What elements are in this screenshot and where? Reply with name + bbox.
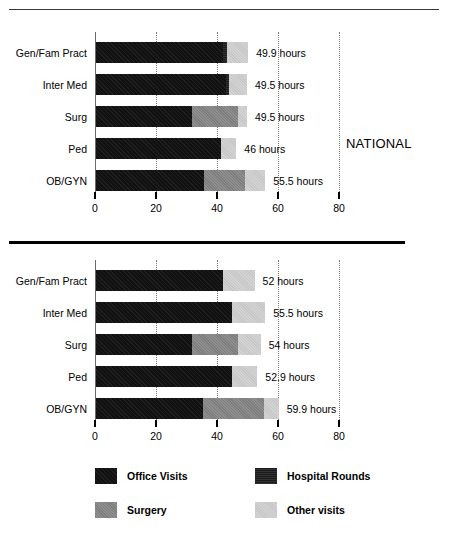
legend-swatch [255,502,277,518]
bar-segment-other-visits [245,170,265,191]
bar-total-label: 54 hours [269,339,310,351]
category-label: Ped [68,143,87,155]
stacked-bar [96,170,265,191]
bar-total-label: 55.5 hours [273,175,323,187]
bar-segment-other-visits [238,106,247,127]
plot-area-western: 020406080Gen/Fam Pract52 hoursInter Med5… [95,260,340,420]
legend-label: Hospital Rounds [287,470,370,482]
panel-divider [9,241,405,244]
bar-segment-surgery [192,106,238,127]
stacked-bar [96,398,279,419]
bar-segment-office-visits [96,334,192,355]
x-axis-tick [277,420,279,427]
stacked-bar [96,138,236,159]
x-axis-tick [338,192,340,199]
bar-total-label: 59.9 hours [287,403,337,415]
x-axis-tick-label: 0 [92,202,98,214]
category-label: Inter Med [43,79,87,91]
legend-swatch [95,468,117,484]
bar-segment-office-visits [96,74,226,95]
stacked-bar [96,302,265,323]
bar-total-label: 49.9 hours [256,47,306,59]
legend-item: Other visits [255,502,345,518]
chart-page: 020406080Gen/Fam Pract49.9 hoursInter Me… [0,0,466,539]
bar-segment-other-visits [264,398,279,419]
bar-segment-office-visits [96,42,223,63]
x-axis-tick-label: 80 [333,202,345,214]
chart-row: Inter Med49.5 hours [95,74,339,95]
legend-swatch [95,502,117,518]
stacked-bar [96,106,247,127]
bar-segment-surgery [204,170,246,191]
x-axis-tick-label: 40 [211,202,223,214]
x-axis-tick-label: 80 [333,430,345,442]
chart-row: Surg54 hours [95,334,339,355]
bar-segment-other-visits [238,334,261,355]
chart-legend: Office VisitsHospital RoundsSurgeryOther… [95,466,425,526]
legend-label: Other visits [287,504,345,516]
stacked-bar [96,270,255,291]
stacked-bar [96,74,247,95]
bar-segment-other-visits [223,270,255,291]
chart-row: Gen/Fam Pract52 hours [95,270,339,291]
x-axis-tick [338,420,340,427]
top-divider [9,9,439,10]
category-label: Inter Med [43,307,87,319]
legend-item: Office Visits [95,468,188,484]
category-label: Ped [68,371,87,383]
chart-row: Ped52.9 hours [95,366,339,387]
chart-row: Inter Med55.5 hours [95,302,339,323]
bar-total-label: 52 hours [263,275,304,287]
bar-segment-other-visits [232,366,258,387]
stacked-bar [96,366,257,387]
chart-row: OB/GYN59.9 hours [95,398,339,419]
x-axis-tick-label: 40 [211,430,223,442]
bar-segment-other-visits [229,74,247,95]
bar-total-label: 55.5 hours [273,307,323,319]
x-axis-tick [277,192,279,199]
stacked-bar [96,42,248,63]
x-axis-tick [216,192,218,199]
category-label: Gen/Fam Pract [16,47,87,59]
x-axis-tick [155,192,157,199]
bar-segment-other-visits [227,42,248,63]
legend-item: Surgery [95,502,167,518]
bar-segment-office-visits [96,170,204,191]
chart-row: OB/GYN55.5 hours [95,170,339,191]
legend-swatch [255,468,277,484]
x-axis-tick-label: 60 [272,430,284,442]
gridline [339,260,341,420]
panel-caption-national: NATIONAL [346,136,412,151]
bar-segment-office-visits [96,270,223,291]
gridline [339,32,341,192]
bar-segment-office-visits [96,138,221,159]
chart-row: Surg49.5 hours [95,106,339,127]
category-label: Surg [65,111,87,123]
bar-total-label: 49.5 hours [255,111,305,123]
x-axis-tick [94,420,96,427]
bar-total-label: 49.5 hours [255,79,305,91]
bar-segment-other-visits [232,302,266,323]
category-label: Gen/Fam Pract [16,275,87,287]
bar-segment-office-visits [96,106,192,127]
bar-total-label: 52.9 hours [265,371,315,383]
x-axis-tick-label: 20 [150,430,162,442]
x-axis-tick [155,420,157,427]
x-axis-tick-label: 60 [272,202,284,214]
bar-segment-office-visits [96,302,232,323]
stacked-bar [96,334,261,355]
x-axis-tick [94,192,96,199]
panel-national: 020406080Gen/Fam Pract49.9 hoursInter Me… [0,24,466,236]
x-axis-tick-label: 20 [150,202,162,214]
panel-western-massachusetts: 020406080Gen/Fam Pract52 hoursInter Med5… [0,252,466,456]
plot-area-national: 020406080Gen/Fam Pract49.9 hoursInter Me… [95,32,340,192]
bar-segment-office-visits [96,398,203,419]
legend-item: Hospital Rounds [255,468,370,484]
chart-row: Ped46 hours [95,138,339,159]
category-label: Surg [65,339,87,351]
bar-total-label: 46 hours [244,143,285,155]
bar-segment-office-visits [96,366,232,387]
category-label: OB/GYN [46,403,87,415]
x-axis-tick [216,420,218,427]
x-axis-tick-label: 0 [92,430,98,442]
